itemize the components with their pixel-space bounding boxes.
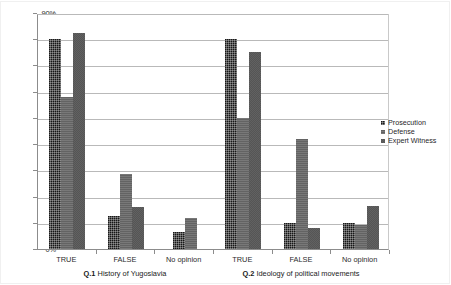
bar-group (214, 15, 273, 249)
bar (296, 139, 308, 249)
x-tick-mark (389, 250, 390, 254)
chart-legend: ProsecutionDefenseExpert Witness (381, 118, 436, 145)
legend-item: Expert Witness (381, 136, 436, 145)
legend-swatch-icon (381, 121, 385, 125)
group-caption: Q.1 History of Yugoslavia (55, 269, 195, 278)
bar (225, 39, 237, 249)
bar (249, 52, 261, 249)
bar (49, 39, 61, 249)
bar-group (155, 15, 214, 249)
legend-label: Defense (388, 127, 415, 136)
bar (237, 118, 249, 249)
bar (284, 223, 296, 249)
category-label: FALSE (96, 255, 155, 264)
bar (108, 216, 120, 249)
x-tick-mark (96, 250, 97, 254)
bar (308, 228, 320, 249)
bar-group (97, 15, 156, 249)
x-tick-mark (154, 250, 155, 254)
bar (120, 174, 132, 249)
plot-area (37, 14, 389, 250)
bar (61, 97, 73, 249)
legend-label: Prosecution (388, 118, 426, 127)
category-label: TRUE (37, 255, 96, 264)
legend-swatch-icon (381, 130, 385, 134)
bar (132, 207, 144, 249)
legend-item: Prosecution (381, 118, 436, 127)
group-caption: Q.2 Ideology of political movements (231, 269, 371, 278)
x-tick-mark (330, 250, 331, 254)
bar (367, 206, 379, 249)
x-tick-mark (213, 250, 214, 254)
bar (173, 232, 185, 249)
bar (185, 218, 197, 249)
category-label: FALSE (272, 255, 331, 264)
bar-chart-figure: 0%10%20%30%40%50%60%70%80%90% TRUEFALSEN… (0, 0, 451, 285)
legend-label: Expert Witness (388, 136, 436, 145)
category-label: No opinion (154, 255, 213, 264)
legend-swatch-icon (381, 139, 385, 143)
category-label: TRUE (213, 255, 272, 264)
bar (73, 33, 85, 249)
bar (355, 225, 367, 249)
category-label: No opinion (330, 255, 389, 264)
x-tick-mark (272, 250, 273, 254)
bar-group (273, 15, 332, 249)
bar (343, 223, 355, 249)
legend-item: Defense (381, 127, 436, 136)
bar-group (38, 15, 97, 249)
